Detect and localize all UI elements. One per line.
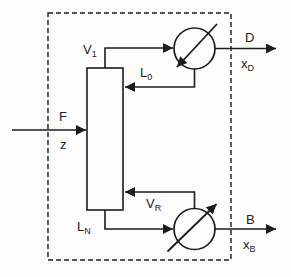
diagram-canvas: V1 L0 F z VR LN D xD B xB	[0, 0, 291, 277]
reboiler-circle-icon	[174, 209, 215, 250]
condenser-splitter-symbol	[174, 24, 217, 69]
label-feed-composition: z	[60, 137, 67, 152]
stream-l0-reflux-line	[125, 69, 195, 87]
column-block	[87, 68, 123, 210]
label-v1: V1	[83, 42, 97, 59]
label-distillate: D	[245, 30, 254, 45]
label-xb-sub: B	[250, 244, 256, 254]
label-vr: VR	[146, 196, 162, 213]
label-l0: L0	[140, 65, 152, 82]
label-vr-base: V	[146, 196, 155, 211]
distillation-diagram: V1 L0 F z VR LN D xD B xB	[0, 0, 291, 277]
label-bottoms: B	[246, 212, 255, 227]
label-feed: F	[59, 109, 67, 124]
label-xd-sub: D	[248, 63, 255, 73]
label-v1-sub: 1	[92, 49, 97, 59]
label-ln-sub: N	[84, 226, 91, 236]
label-v1-base: V	[83, 42, 92, 57]
label-l0-base: L	[140, 65, 147, 80]
label-vr-sub: R	[155, 203, 162, 213]
label-xb: xB	[243, 237, 256, 254]
reboiler-splitter-symbol	[168, 204, 217, 252]
stream-ln-bottoms-liquid-line	[105, 210, 173, 229]
label-ln-base: L	[77, 219, 84, 234]
label-l0-sub: 0	[147, 72, 152, 82]
label-ln: LN	[77, 219, 91, 236]
stream-v1-overhead-vapor-line	[105, 48, 173, 68]
label-xd: xD	[241, 56, 255, 73]
